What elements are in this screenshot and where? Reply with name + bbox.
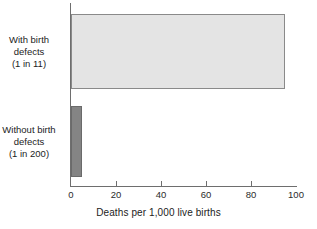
category-label-line: (1 in 11) <box>0 58 62 70</box>
category-label-with-birth-defects: With birth defects (1 in 11) <box>0 34 62 70</box>
x-axis-tick <box>206 181 207 186</box>
x-axis-tick-label: 40 <box>156 189 167 200</box>
x-axis-tick-label: 100 <box>288 189 304 200</box>
x-axis-tick <box>161 181 162 186</box>
x-axis-line <box>70 186 297 187</box>
x-axis-tick-label: 0 <box>68 189 73 200</box>
category-label-line: defects <box>0 46 62 58</box>
x-axis-tick-label: 60 <box>201 189 212 200</box>
x-axis-tick <box>251 181 252 186</box>
category-label-line: defects <box>0 136 62 148</box>
bar-without-birth-defects <box>71 106 82 177</box>
category-label-line: Without birth <box>0 124 62 136</box>
category-label-line: With birth <box>0 34 62 46</box>
x-axis-tick <box>116 181 117 186</box>
category-label-without-birth-defects: Without birth defects (1 in 200) <box>0 124 62 160</box>
bar-with-birth-defects <box>71 14 285 89</box>
category-label-line: (1 in 200) <box>0 148 62 160</box>
bar-chart: With birth defects (1 in 11) Without bir… <box>0 0 317 229</box>
x-axis-title: Deaths per 1,000 live births <box>0 207 317 218</box>
x-axis-tick-label: 20 <box>111 189 122 200</box>
x-axis-tick-label: 80 <box>246 189 257 200</box>
